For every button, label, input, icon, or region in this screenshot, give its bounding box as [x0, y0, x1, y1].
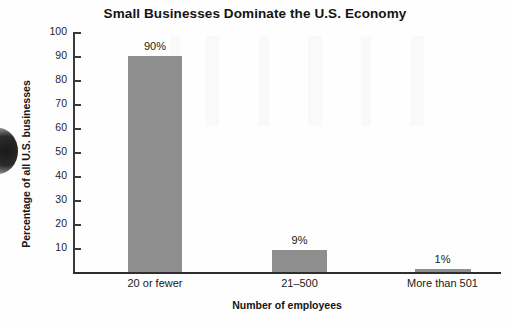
- y-axis-tick-label: 40: [33, 169, 67, 181]
- y-axis-tick-mark: [73, 176, 81, 178]
- y-axis-tick-mark: [73, 152, 81, 154]
- x-axis-line: [73, 272, 501, 274]
- y-axis-tick-mark: [73, 248, 81, 250]
- bar: [415, 269, 471, 272]
- x-axis-category-label: More than 501: [383, 277, 503, 289]
- y-axis-tick-label: 70: [33, 97, 67, 109]
- y-axis-tick-label: 10: [33, 241, 67, 253]
- y-axis-title: Percentage of all U.S. businesses: [20, 54, 32, 274]
- y-axis-tick-label: 30: [33, 193, 67, 205]
- y-axis-tick-mark: [73, 56, 81, 58]
- y-axis-tick-mark: [73, 200, 81, 202]
- y-axis-tick-mark: [73, 80, 81, 82]
- x-axis-category-label: 21–500: [240, 277, 360, 289]
- y-axis-tick-mark: [73, 32, 81, 34]
- bar-value-label: 90%: [115, 40, 195, 52]
- plot-area: Percentage of all U.S. businesses 100908…: [0, 0, 510, 326]
- chart-figure: Small Businesses Dominate the U.S. Econo…: [0, 0, 510, 326]
- y-axis-tick-label: 90: [33, 49, 67, 61]
- y-axis-tick-label: 50: [33, 145, 67, 157]
- y-axis-tick-mark: [73, 224, 81, 226]
- bar: [272, 250, 327, 272]
- y-axis-tick-label: 100: [33, 25, 67, 37]
- y-axis-tick-label: 60: [33, 121, 67, 133]
- bar-value-label: 9%: [260, 234, 340, 246]
- bar: [128, 56, 182, 272]
- y-axis-tick-mark: [73, 104, 81, 106]
- bar-value-label: 1%: [403, 253, 483, 265]
- y-axis-tick-label: 80: [33, 73, 67, 85]
- x-axis-title: Number of employees: [73, 299, 501, 311]
- x-axis-category-label: 20 or fewer: [95, 277, 215, 289]
- y-axis-tick-mark: [73, 128, 81, 130]
- y-axis-tick-label: 20: [33, 217, 67, 229]
